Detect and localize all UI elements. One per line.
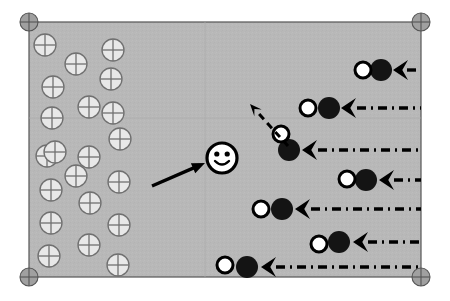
crossed-circle-11 [108,171,130,193]
crossed-circle-18 [107,254,129,276]
crossed-circle-13 [79,192,101,214]
crossed-circle-16 [78,234,100,256]
dark-particle-row-7 [236,256,258,278]
crosshair-marker-bottom-left [20,268,38,286]
crossed-circle-1 [34,34,56,56]
crossed-circle-3 [102,39,124,61]
crossed-circle-5 [100,68,122,90]
crossed-circle-20 [44,141,66,163]
figure-canvas [0,0,450,301]
white-particle-row-5 [253,201,269,217]
white-particle-row-1 [355,62,371,78]
crossed-circle-4 [42,76,64,98]
dark-particle-row-5 [271,198,293,220]
smiley-eye-left [214,151,219,156]
smiley-eye-right [225,151,230,156]
dark-particle-row-2 [318,97,340,119]
crosshair-marker-top-right [412,13,430,31]
diagram-svg [0,0,450,301]
white-particle-row-7 [217,257,233,273]
crossed-circle-7 [41,107,63,129]
crossed-circle-19 [65,165,87,187]
crossed-circle-12 [40,179,62,201]
smiley-face [207,143,237,173]
dark-particle-row-1 [370,59,392,81]
crosshair-marker-bottom-right [412,268,430,286]
crosshair-marker-top-left [20,13,38,31]
crossed-circle-17 [38,245,60,267]
crossed-circle-6 [78,96,100,118]
crossed-circle-15 [108,214,130,236]
white-particle-row-2 [300,100,316,116]
smiley-head [207,143,237,173]
crossed-circle-2 [65,53,87,75]
dark-particle-row-4 [355,169,377,191]
crossed-circle-8 [109,128,131,150]
crossed-circle-10 [78,146,100,168]
white-particle-row-4 [339,171,355,187]
crossed-circle-21 [102,102,124,124]
crossed-circle-14 [40,212,62,234]
dark-particle-row-6 [328,231,350,253]
smiley-face-marker [207,143,237,173]
white-particle-row-6 [311,236,327,252]
